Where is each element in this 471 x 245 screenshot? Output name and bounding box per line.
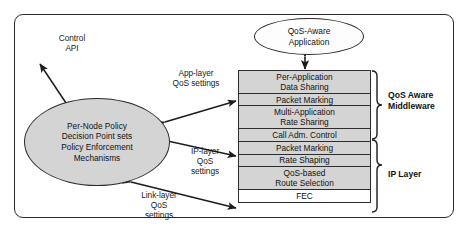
box-per-application-data-sharing: Per-Application Data Sharing [238, 70, 371, 94]
ip-layer-settings-label: IP-layer QoS settings [174, 146, 236, 177]
policy-decision-point-ellipse: Per-Node Policy Decision Point sets Poli… [24, 98, 170, 186]
layer-stack: Per-Application Data Sharing Packet Mark… [238, 70, 371, 203]
diagram-canvas: Per-Node Policy Decision Point sets Poli… [0, 0, 471, 245]
app-layer-settings-label: App-layer QoS settings [148, 68, 244, 88]
qos-aware-application-ellipse: QoS-Aware Application [254, 18, 364, 55]
qos-aware-middleware-label: QoS Aware Middleware [388, 90, 435, 112]
box-multi-application-rate-sharing: Multi-Application Rate Sharing [238, 105, 371, 129]
box-qos-based-route-selection: QoS-based Route Selection [238, 166, 371, 190]
control-api-label: Control API [30, 33, 114, 53]
link-layer-settings-label: Link-layer QoS settings [124, 190, 194, 221]
ip-layer-group-label: IP Layer [388, 169, 421, 180]
box-fec: FEC [238, 189, 371, 203]
